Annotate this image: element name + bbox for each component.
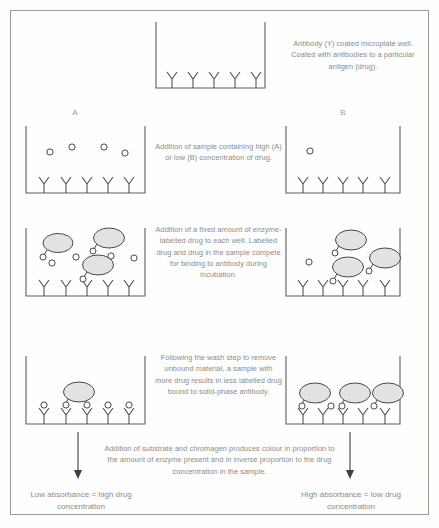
result-left: Low absorbance = high drug concentration [18,489,144,514]
caption-step-3: Addition of a fixed amount of enzyme-lab… [155,224,282,280]
result-right: High absorbance = low drug concentration [288,489,414,514]
diagram-page: Antibody (Y) coated microplate well. Coa… [0,0,439,528]
caption-step-2: Addition of sample containing high (A) o… [155,141,282,164]
caption-step-4: Following the wash step to remove unboun… [155,352,282,397]
well-label-b: B [333,108,353,117]
caption-step-1: Antibody (Y) coated microplate well. Coa… [282,38,424,72]
caption-step-5: Addition of substrate and chromagen prod… [103,443,336,477]
well-label-a: A [65,108,85,117]
